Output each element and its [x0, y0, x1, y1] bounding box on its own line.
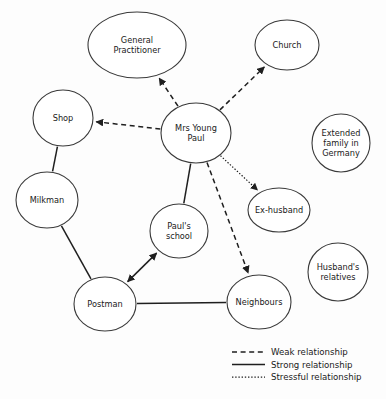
edge-center-exhusband	[220, 156, 257, 190]
node-exhusband-circle	[248, 188, 310, 232]
node-church[interactable]: Church	[255, 20, 319, 70]
node-relatives-circle	[308, 243, 368, 301]
edge-center-school	[184, 164, 191, 204]
edge-shop-milkman	[53, 147, 58, 172]
ecomap-diagram: GeneralPractitionerChurchShopMrs YoungPa…	[0, 0, 386, 399]
node-church-circle	[255, 20, 319, 70]
legend-label-weak: Weak relationship	[271, 347, 348, 357]
node-gp-circle	[88, 12, 186, 78]
node-school-circle	[150, 204, 208, 258]
node-gp[interactable]: GeneralPractitioner	[88, 12, 186, 78]
node-shop[interactable]: Shop	[33, 90, 93, 146]
ecomap-canvas: GeneralPractitionerChurchShopMrs YoungPa…	[0, 0, 386, 399]
node-layer: GeneralPractitionerChurchShopMrs YoungPa…	[16, 12, 370, 331]
node-exhusband[interactable]: Ex-husband	[248, 188, 310, 232]
edge-center-church	[220, 67, 264, 110]
edge-postman-school	[128, 253, 157, 282]
node-relatives[interactable]: Husband'srelatives	[308, 243, 368, 301]
legend: Weak relationshipStrong relationshipStre…	[232, 347, 362, 382]
node-extended-circle	[312, 114, 370, 172]
node-postman[interactable]: Postman	[74, 277, 136, 331]
node-neighbours[interactable]: Neighbours	[227, 275, 291, 329]
node-milkman[interactable]: Milkman	[16, 172, 78, 228]
node-shop-circle	[33, 90, 93, 146]
node-milkman-circle	[16, 172, 78, 228]
edge-postman-neighbours	[137, 302, 226, 303]
edge-center-neighbours	[207, 163, 248, 273]
edge-center-shop	[96, 122, 160, 129]
legend-label-stressful: Stressful relationship	[271, 372, 362, 382]
node-center-circle	[161, 103, 231, 163]
legend-label-strong: Strong relationship	[271, 360, 353, 370]
node-extended[interactable]: Extendedfamily inGermany	[312, 114, 370, 172]
edge-milkman-postman	[61, 226, 91, 279]
node-center[interactable]: Mrs YoungPaul	[161, 103, 231, 163]
edge-center-gp	[159, 78, 178, 106]
node-postman-circle	[74, 277, 136, 331]
node-neighbours-circle	[227, 275, 291, 329]
node-school[interactable]: Paul'sschool	[150, 204, 208, 258]
